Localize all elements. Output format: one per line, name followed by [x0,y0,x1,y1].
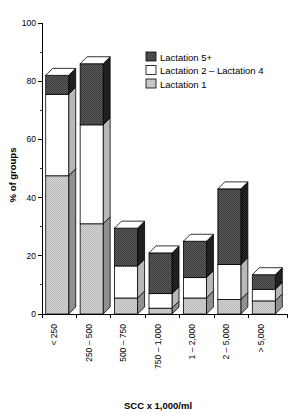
bar-group [46,68,76,314]
bar-segment-lactation-1 [183,298,206,314]
bar-segment-lactation-5plus-side [103,57,110,125]
x-tick-label: 750 – 1,000 [153,324,163,369]
y-tick-label: 80 [27,76,37,86]
legend-swatch-lactation-5plus [146,52,156,61]
y-tick-label: 100 [22,18,36,28]
x-tick-label: 500 – 750 [118,324,128,362]
x-tick-label: > 5,000 [256,324,266,353]
x-tick-label: 2 – 5,000 [221,324,231,360]
bar-segment-lactation-1-side [103,217,110,314]
y-axis-title: % of groups [7,148,18,203]
x-axis-title: SCC x 1,000/ml [124,400,192,411]
bar-segment-lactation-5plus [183,241,206,277]
stacked-bar-chart: 020406080100 < 250250 – 500500 – 750750 … [0,0,291,418]
bar-segment-lactation-5plus-side [172,246,179,294]
bar-group [115,221,145,314]
bar-segment-lactation-2-4 [115,266,138,298]
bar-segment-lactation-5plus [80,64,103,125]
bar-group [149,246,179,314]
y-tick-label: 60 [27,134,37,144]
bar-segment-lactation-2-4 [252,289,275,301]
x-tick-label: 250 – 500 [84,324,94,362]
bar-segment-lactation-1 [80,224,103,314]
bar-segment-lactation-1-side [69,169,76,314]
y-tick-label: 20 [27,251,37,261]
bar-segment-lactation-5plus-side [241,182,248,265]
bar-segment-lactation-1 [218,299,241,314]
legend-label: Lactation 2 – Lactation 4 [160,65,264,76]
bar-segment-lactation-5plus-side [138,221,145,266]
bar-segment-lactation-1 [252,301,275,314]
legend-label: Lactation 1 [160,79,206,90]
bar-group [218,182,248,314]
bar-segment-lactation-2-4 [80,125,103,224]
legend-swatch-lactation-1 [146,79,156,88]
bar-segment-lactation-5plus [46,75,69,94]
bar-segment-lactation-1 [46,176,69,314]
bar-segment-lactation-1 [115,298,138,314]
bar-segment-lactation-5plus [149,253,172,294]
x-tick-label: 1 – 2,000 [187,324,197,360]
bar-segment-lactation-1 [149,308,172,314]
bar-group [183,234,213,314]
legend-swatch-lactation-2-4 [146,66,156,75]
bar-segment-lactation-2-4-side [103,118,110,224]
bar-segment-lactation-2-4 [218,265,241,300]
bar-segment-lactation-2-4-side [69,87,76,175]
bar-segment-lactation-2-4 [149,294,172,309]
chart-container: 020406080100 < 250250 – 500500 – 750750 … [0,0,291,418]
bar-group [252,268,282,314]
bar-segment-lactation-2-4 [46,94,69,175]
bar-segment-lactation-2-4 [183,278,206,298]
y-tick-label: 40 [27,193,37,203]
bar-segment-lactation-5plus [252,275,275,290]
bar-group [80,57,110,314]
x-tick-label: < 250 [49,324,59,346]
bar-segment-lactation-5plus [115,228,138,266]
bar-segment-lactation-5plus [218,189,241,265]
legend-label: Lactation 5+ [160,52,212,63]
y-tick-label: 0 [31,309,36,319]
